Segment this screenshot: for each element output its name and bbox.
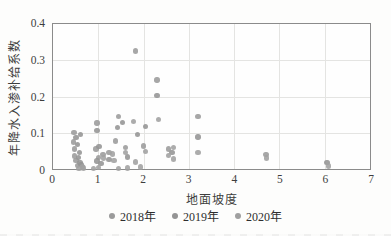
gridline-horizontal xyxy=(53,60,370,61)
scatter-point-2019 xyxy=(135,132,140,137)
scatter-point-2020 xyxy=(143,149,148,154)
scatter-point-2018 xyxy=(116,114,121,119)
scatter-point-2019 xyxy=(75,142,80,147)
y-tick-labels: 00.10.20.30.4 xyxy=(0,23,48,170)
legend-dot-icon xyxy=(109,213,115,219)
legend-item-2019: 2019年 xyxy=(172,207,219,225)
scatter-point-2020 xyxy=(116,166,121,171)
y-tick-label: 0.3 xyxy=(31,54,45,66)
scatter-point-2018 xyxy=(94,120,99,125)
scatter-point-2020 xyxy=(123,150,128,155)
legend-label: 2019年 xyxy=(183,207,219,225)
x-tick-labels: 01234567 xyxy=(52,172,371,186)
scatter-point-2020 xyxy=(326,163,331,168)
legend-item-2018: 2018年 xyxy=(109,207,156,225)
scatter-point-2020 xyxy=(171,145,176,150)
x-tick-label: 5 xyxy=(277,172,283,186)
legend-item-2020: 2020年 xyxy=(235,207,282,225)
scatter-point-2020 xyxy=(171,156,176,161)
scatter-point-2019 xyxy=(143,124,148,129)
scatter-point-2019 xyxy=(154,93,159,98)
gridline-horizontal xyxy=(53,97,370,98)
scatter-point-2020 xyxy=(111,158,116,163)
scatter-point-2018 xyxy=(195,114,200,119)
scatter-point-2018 xyxy=(154,77,159,82)
scatter-point-2019 xyxy=(94,128,99,133)
y-tick-label: 0.1 xyxy=(31,127,45,139)
x-axis-title: 地面坡度 xyxy=(52,190,371,208)
x-tick-label: 6 xyxy=(323,172,329,186)
plot-area xyxy=(52,23,371,170)
scatter-point-2020 xyxy=(96,165,101,170)
y-tick-label: 0 xyxy=(39,164,45,176)
x-tick-label: 0 xyxy=(49,172,55,186)
legend: 2018年2019年2020年 xyxy=(0,207,391,225)
scatter-point-2019 xyxy=(96,144,101,149)
scatter-point-2019 xyxy=(195,134,200,139)
x-tick-label: 4 xyxy=(231,172,237,186)
scatter-point-2020 xyxy=(125,165,130,170)
scatter-point-2020 xyxy=(131,119,136,124)
legend-label: 2018年 xyxy=(120,207,156,225)
scatter-point-2019 xyxy=(120,120,125,125)
x-tick-label: 3 xyxy=(186,172,192,186)
legend-dot-icon xyxy=(235,213,241,219)
scatter-figure: 年降水入渗补给系数 00.10.20.30.4 01234567 地面坡度 20… xyxy=(0,0,391,236)
scatter-point-2018 xyxy=(113,138,118,143)
scatter-point-2019 xyxy=(78,132,83,137)
scatter-point-2018 xyxy=(133,48,138,53)
y-tick-label: 0.4 xyxy=(31,17,45,29)
legend-dot-icon xyxy=(172,213,178,219)
scatter-point-2019 xyxy=(115,125,120,130)
x-tick-label: 7 xyxy=(368,172,374,186)
scatter-point-2020 xyxy=(81,165,86,170)
scatter-point-2020 xyxy=(156,117,161,122)
scatter-point-2020 xyxy=(110,151,115,156)
x-tick-label: 1 xyxy=(95,172,101,186)
scatter-point-2020 xyxy=(195,150,200,155)
x-tick-label: 2 xyxy=(140,172,146,186)
legend-label: 2020年 xyxy=(246,207,282,225)
y-tick-label: 0.2 xyxy=(31,91,45,103)
scatter-point-2020 xyxy=(133,159,138,164)
scan-edge-artifact xyxy=(0,234,391,236)
scatter-point-2019 xyxy=(125,154,130,159)
gridline-horizontal xyxy=(53,133,370,134)
scatter-point-2020 xyxy=(138,164,143,169)
scatter-point-2020 xyxy=(264,155,269,160)
